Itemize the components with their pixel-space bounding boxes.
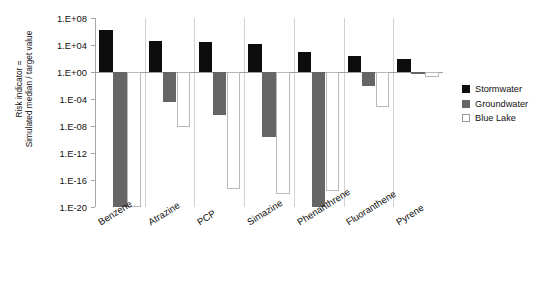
y-axis-tick-label: 1.E-16 [59, 175, 87, 186]
y-axis-line [95, 18, 96, 207]
bar-phenanthrene-blue-lake [326, 72, 340, 191]
legend-item-groundwater: Groundwater [462, 99, 550, 109]
bar-pcp-stormwater [199, 42, 213, 72]
bar-fluoranthene-groundwater [362, 72, 376, 86]
y-axis-tick [91, 180, 95, 181]
plot-area [95, 18, 443, 207]
category-separator [244, 18, 245, 207]
category-separator [194, 18, 195, 207]
bar-pcp-blue-lake [227, 72, 241, 189]
y-axis-tick-label: 1.E-04 [59, 94, 87, 105]
legend: StormwaterGroundwaterBlue Lake [462, 84, 550, 128]
legend-label: Stormwater [475, 84, 522, 94]
legend-item-blue-lake: Blue Lake [462, 113, 550, 123]
y-axis-tick [91, 99, 95, 100]
y-axis-tick-label: 1.E+04 [57, 40, 87, 51]
bar-atrazine-stormwater [149, 41, 163, 72]
y-axis-tick-label: 1.E+08 [57, 13, 87, 24]
bar-benzene-groundwater [113, 72, 127, 207]
y-axis-tick-label: 1.E-08 [59, 121, 87, 132]
category-separator [145, 18, 146, 207]
bar-phenanthrene-stormwater [298, 52, 312, 72]
bar-atrazine-groundwater [163, 72, 177, 102]
category-separator [294, 18, 295, 207]
bar-benzene-stormwater [99, 30, 113, 72]
y-axis-tick-label: 1.E-20 [59, 202, 87, 213]
y-axis-tick [91, 126, 95, 127]
bar-pyrene-blue-lake [425, 72, 439, 77]
y-axis-tick [91, 45, 95, 46]
bar-pyrene-groundwater [411, 72, 425, 74]
category-separator [344, 18, 345, 207]
y-axis-tick [91, 207, 95, 208]
y-axis-tick-labels: 1.E+081.E+041.E+001.E-041.E-081.E-121.E-… [0, 18, 95, 207]
legend-item-stormwater: Stormwater [462, 84, 550, 94]
legend-label: Blue Lake [475, 113, 516, 123]
bar-fluoranthene-blue-lake [376, 72, 390, 107]
y-axis-tick-label: 1.E-12 [59, 148, 87, 159]
bar-atrazine-blue-lake [177, 72, 191, 127]
legend-swatch-icon [462, 114, 470, 122]
y-axis-tick [91, 18, 95, 19]
bar-simazine-stormwater [248, 44, 262, 72]
chart-figure: Risk indicator = Simulated median / targ… [0, 0, 558, 295]
y-axis-tick-label: 1.E+00 [57, 67, 87, 78]
x-axis-label-pcp: PCP [195, 208, 218, 228]
bar-fluoranthene-stormwater [348, 56, 362, 72]
bar-simazine-groundwater [262, 72, 276, 137]
y-axis-tick [91, 153, 95, 154]
bar-pcp-groundwater [213, 72, 227, 115]
legend-label: Groundwater [475, 99, 528, 109]
bar-simazine-blue-lake [276, 72, 290, 194]
bar-benzene-blue-lake [127, 72, 141, 207]
legend-swatch-icon [462, 100, 470, 108]
bar-phenanthrene-groundwater [312, 72, 326, 207]
category-separator [393, 18, 394, 207]
bar-pyrene-stormwater [397, 59, 411, 72]
legend-swatch-icon [462, 85, 470, 93]
